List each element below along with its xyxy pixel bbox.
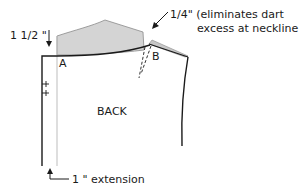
point-b-label: B <box>152 50 160 63</box>
armhole-curve <box>182 57 188 146</box>
note-line-2: excess at neckline <box>197 22 298 35</box>
point-a-label: A <box>59 57 67 70</box>
extension-label: 1 " extension <box>72 173 145 186</box>
grainline-marks <box>42 81 49 96</box>
note-line-1: 1/4" (eliminates dart <box>170 8 284 21</box>
extension-arrow-icon <box>47 168 69 179</box>
down-arrow-icon <box>46 30 52 47</box>
piece-name-label: BACK <box>97 105 128 118</box>
note-arrow-icon <box>152 12 168 29</box>
dart-lines <box>139 46 151 78</box>
yoke-height-label: 1 1/2 " <box>10 29 47 42</box>
pattern-diagram: 1 1/2 " A B 1/4" (eliminates dart excess… <box>0 0 305 191</box>
center-back-line <box>42 56 57 166</box>
